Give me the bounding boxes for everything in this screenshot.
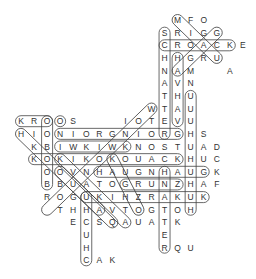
grid-letter[interactable]: A	[172, 65, 184, 77]
grid-letter[interactable]: A	[159, 77, 171, 89]
grid-letter[interactable]: S	[198, 128, 210, 140]
grid-letter[interactable]: O	[172, 204, 184, 216]
grid-letter[interactable]: N	[159, 65, 171, 77]
grid-letter[interactable]: S	[93, 216, 105, 228]
grid-letter[interactable]: H	[159, 52, 171, 64]
grid-letter[interactable]: U	[146, 178, 158, 190]
grid-letter[interactable]: K	[93, 191, 105, 203]
grid-letter[interactable]: A	[224, 65, 236, 77]
grid-letter[interactable]: T	[172, 141, 184, 153]
grid-letter[interactable]: K	[106, 153, 118, 165]
grid-letter[interactable]: O	[146, 128, 158, 140]
grid-letter[interactable]: W	[67, 141, 79, 153]
grid-letter[interactable]: H	[172, 52, 184, 64]
grid-letter[interactable]: A	[93, 204, 105, 216]
grid-letter[interactable]: Q	[106, 216, 118, 228]
grid-letter[interactable]: C	[80, 216, 92, 228]
grid-letter[interactable]: R	[172, 39, 184, 51]
grid-letter[interactable]: R	[41, 191, 53, 203]
grid-letter[interactable]: D	[211, 141, 223, 153]
grid-letter[interactable]: O	[185, 39, 197, 51]
grid-letter[interactable]: G	[106, 128, 118, 140]
grid-letter[interactable]: K	[80, 153, 92, 165]
grid-letter[interactable]: U	[185, 115, 197, 127]
grid-letter[interactable]: G	[172, 128, 184, 140]
grid-letter[interactable]: T	[93, 178, 105, 190]
grid-letter[interactable]: I	[106, 191, 118, 203]
grid-letter[interactable]: A	[146, 153, 158, 165]
grid-letter[interactable]: I	[54, 141, 66, 153]
grid-letter[interactable]: V	[172, 115, 184, 127]
grid-letter[interactable]: Z	[132, 191, 144, 203]
grid-letter[interactable]: R	[198, 52, 210, 64]
grid-letter[interactable]: A	[198, 178, 210, 190]
grid-letter[interactable]: W	[146, 103, 158, 115]
grid-letter[interactable]: N	[119, 128, 131, 140]
grid-letter[interactable]: U	[80, 229, 92, 241]
grid-letter[interactable]: I	[185, 27, 197, 39]
grid-letter[interactable]: H	[185, 128, 197, 140]
grid-letter[interactable]: S	[67, 115, 79, 127]
grid-letter[interactable]: G	[119, 178, 131, 190]
grid-letter[interactable]: O	[41, 115, 53, 127]
grid-letter[interactable]: R	[146, 191, 158, 203]
grid-letter[interactable]: O	[119, 153, 131, 165]
grid-letter[interactable]: O	[54, 191, 66, 203]
grid-letter[interactable]: S	[159, 27, 171, 39]
grid-letter[interactable]: G	[67, 191, 79, 203]
grid-letter[interactable]: A	[106, 166, 118, 178]
grid-letter[interactable]: Q	[172, 242, 184, 254]
grid-letter[interactable]: G	[198, 27, 210, 39]
grid-letter[interactable]: H	[80, 204, 92, 216]
grid-letter[interactable]: M	[185, 65, 197, 77]
grid-letter[interactable]: H	[80, 242, 92, 254]
grid-letter[interactable]: U	[132, 153, 144, 165]
grid-letter[interactable]: I	[67, 153, 79, 165]
grid-letter[interactable]: K	[172, 216, 184, 228]
grid-letter[interactable]: T	[159, 103, 171, 115]
grid-letter[interactable]: K	[106, 254, 118, 266]
grid-letter[interactable]: V	[172, 77, 184, 89]
grid-letter[interactable]: B	[41, 178, 53, 190]
grid-letter[interactable]: A	[119, 216, 131, 228]
grid-letter[interactable]: A	[172, 103, 184, 115]
grid-letter[interactable]: O	[132, 115, 144, 127]
grid-letter[interactable]: K	[54, 153, 66, 165]
grid-letter[interactable]: N	[146, 166, 158, 178]
grid-letter[interactable]: A	[159, 191, 171, 203]
grid-letter[interactable]: N	[185, 77, 197, 89]
grid-letter[interactable]: U	[211, 52, 223, 64]
grid-letter[interactable]: E	[237, 39, 249, 51]
grid-letter[interactable]: U	[119, 166, 131, 178]
grid-letter[interactable]: A	[93, 254, 105, 266]
grid-letter[interactable]: C	[211, 39, 223, 51]
grid-letter[interactable]: G	[211, 27, 223, 39]
grid-letter[interactable]: O	[54, 166, 66, 178]
grid-letter[interactable]: H	[185, 204, 197, 216]
grid-letter[interactable]: U	[67, 178, 79, 190]
grid-letter[interactable]: U	[185, 166, 197, 178]
grid-letter[interactable]: C	[211, 153, 223, 165]
grid-letter[interactable]: G	[146, 204, 158, 216]
grid-letter[interactable]: C	[159, 39, 171, 51]
grid-letter[interactable]: E	[159, 115, 171, 127]
grid-letter[interactable]: H	[67, 204, 79, 216]
grid-letter[interactable]: T	[159, 216, 171, 228]
grid-letter[interactable]: R	[172, 27, 184, 39]
grid-letter[interactable]: N	[54, 128, 66, 140]
grid-letter[interactable]: O	[106, 178, 118, 190]
grid-letter[interactable]: I	[93, 141, 105, 153]
grid-letter[interactable]: A	[198, 141, 210, 153]
grid-letter[interactable]: A	[198, 39, 210, 51]
grid-letter[interactable]: O	[41, 166, 53, 178]
grid-letter[interactable]: O	[80, 128, 92, 140]
grid-letter[interactable]: E	[159, 229, 171, 241]
grid-letter[interactable]: R	[132, 178, 144, 190]
grid-letter[interactable]: K	[28, 153, 40, 165]
grid-letter[interactable]: C	[159, 153, 171, 165]
grid-letter[interactable]: B	[54, 178, 66, 190]
grid-letter[interactable]: I	[28, 128, 40, 140]
grid-letter[interactable]: O	[41, 128, 53, 140]
grid-letter[interactable]: H	[159, 166, 171, 178]
grid-letter[interactable]: U	[132, 216, 144, 228]
